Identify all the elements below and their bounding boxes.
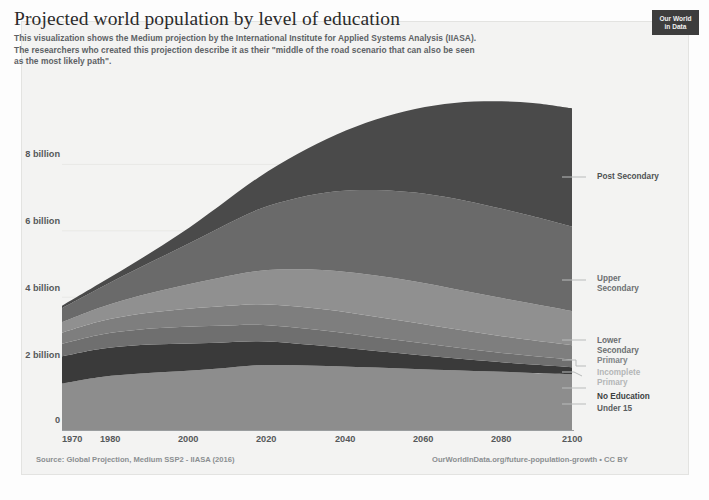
stacked-area-svg [62,98,572,430]
y-tick-8b: 8 billion [0,149,60,159]
legend-lower-secondary-label-1: Lower [597,336,639,346]
chart-header: Projected world population by level of e… [14,8,624,68]
chart-plot-area [62,98,572,430]
legend-incomplete-primary-label-1: Incomplete [597,368,640,378]
legend-no-education[interactable]: No Education [597,392,650,402]
legend-under-15[interactable]: Under 15 [597,404,632,414]
x-axis-line [62,430,574,431]
legend-primary[interactable]: Primary [597,356,628,366]
x-tick-2000: 2000 [178,434,198,444]
y-tick-4b: 4 billion [0,283,60,293]
legend-post-secondary-label: Post Secondary [597,172,659,181]
legend-incomplete-primary[interactable]: Incomplete Primary [597,368,640,387]
legend-upper-secondary-label-1: Upper [597,274,639,284]
legend-no-education-label: No Education [597,392,650,401]
subtitle-line-2: The researchers who created this project… [14,45,614,57]
legend-under-15-label: Under 15 [597,404,632,413]
attribution-note[interactable]: OurWorldInData.org/future-population-gro… [432,455,628,464]
x-tick-2060: 2060 [413,434,433,444]
subtitle-line-1: This visualization shows the Medium proj… [14,33,614,45]
legend-upper-secondary[interactable]: Upper Secondary [597,274,639,293]
legend-primary-label: Primary [597,356,628,365]
legend-incomplete-primary-label-2: Primary [597,378,640,388]
chart-subtitle: This visualization shows the Medium proj… [14,33,614,68]
page-title: Projected world population by level of e… [14,8,624,30]
y-tick-2b: 2 billion [0,350,60,360]
y-tick-0: 0 [38,415,60,425]
y-tick-6b: 6 billion [0,216,60,226]
chart-page: Projected world population by level of e… [0,0,709,500]
x-tick-1970: 1970 [62,434,82,444]
source-note: Source: Global Projection, Medium SSP2 -… [36,455,234,464]
subtitle-line-3: as the most likely path". [14,56,614,68]
legend-lower-secondary-label-2: Secondary [597,346,639,356]
x-tick-1980: 1980 [100,434,120,444]
owid-logo-line-2: in Data [665,23,687,31]
x-tick-2100: 2100 [562,434,582,444]
area-under_15[interactable] [62,365,572,430]
legend-lower-secondary[interactable]: Lower Secondary [597,336,639,355]
legend-upper-secondary-label-2: Secondary [597,284,639,294]
owid-logo[interactable]: Our World in Data [652,10,699,35]
legend-post-secondary[interactable]: Post Secondary [597,172,659,182]
area-series-group [62,101,572,430]
owid-logo-line-1: Our World [659,15,691,23]
x-tick-2020: 2020 [256,434,276,444]
x-tick-2040: 2040 [335,434,355,444]
x-tick-2080: 2080 [491,434,511,444]
